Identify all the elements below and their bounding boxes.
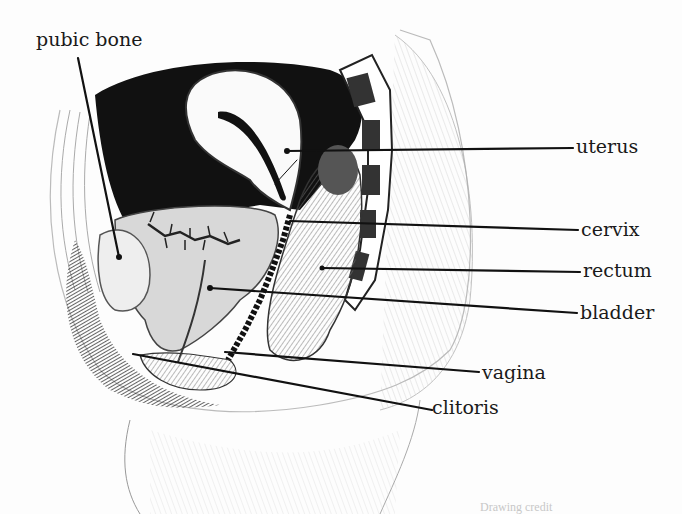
drawing-credit: Drawing credit	[480, 500, 552, 514]
pelvic-illustration	[0, 0, 682, 514]
label-clitoris: clitoris	[432, 398, 499, 417]
anatomy-figure: pubic bone uterus cervix rectum bladder …	[0, 0, 682, 514]
label-bladder: bladder	[580, 303, 654, 322]
rectal-mass	[318, 145, 358, 195]
label-uterus: uterus	[576, 137, 638, 156]
label-cervix: cervix	[581, 220, 640, 239]
label-pubic-bone: pubic bone	[36, 30, 142, 49]
label-rectum: rectum	[583, 261, 652, 280]
label-vagina: vagina	[482, 363, 546, 382]
